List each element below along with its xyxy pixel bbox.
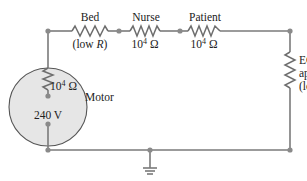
patient-label: Patient — [189, 11, 222, 23]
patient-resistor-icon — [188, 26, 220, 36]
motor-voltage: 240 V — [34, 109, 63, 121]
ground-icon — [143, 150, 157, 174]
ecg-resistor-icon — [285, 52, 295, 88]
bed-label: Bed — [81, 11, 100, 23]
nurse-resistor-icon — [130, 26, 160, 36]
patient-value: 104 Ω — [191, 37, 218, 50]
nurse-value: 104 Ω — [132, 37, 159, 50]
bed-resistor-icon — [72, 26, 108, 36]
ecg-label-line1: ECG — [299, 54, 307, 66]
ecg-label-line3: (low R) — [299, 80, 307, 93]
circuit-diagram: Bed (low R) Nurse 104 Ω Patient 104 Ω EC… — [0, 0, 307, 181]
nurse-label: Nurse — [132, 11, 159, 23]
ecg-label-line2: apparatus — [299, 67, 307, 80]
motor-label: Motor — [85, 91, 114, 103]
bed-value: (low R) — [73, 38, 108, 51]
